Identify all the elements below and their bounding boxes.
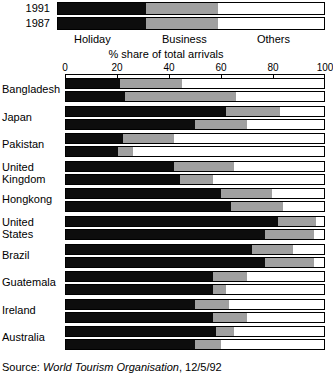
- legend-segment-holiday: [58, 18, 146, 29]
- legend-label-others: Others: [257, 32, 290, 46]
- bar-segment-others: [234, 327, 324, 336]
- axis-rule: [65, 74, 325, 75]
- legend-label-holiday: Holiday: [74, 32, 111, 46]
- bar-segment-others: [221, 340, 324, 349]
- bar-segment-holiday: [66, 285, 213, 294]
- country-group: Hongkong: [0, 188, 332, 212]
- country-group: Brazil: [0, 244, 332, 268]
- legend-sample-bar-1987: [57, 17, 325, 30]
- plot-area: BangladeshJapanPakistanUnitedKingdomHong…: [0, 78, 332, 356]
- bar-segment-holiday: [66, 340, 195, 349]
- bar-segment-business: [195, 340, 221, 349]
- bar-segment-others: [283, 202, 324, 211]
- axis-tick-label: 100: [317, 62, 333, 73]
- legend-sample-bar-1991: [57, 2, 325, 15]
- legend-segment-others: [218, 18, 324, 29]
- bar-segment-holiday: [66, 189, 221, 198]
- stacked-bar: [65, 339, 325, 350]
- bar-segment-holiday: [66, 230, 265, 239]
- bar-segment-business: [174, 162, 233, 171]
- axis-tick-label: 20: [111, 62, 122, 73]
- bar-segment-holiday: [66, 107, 226, 116]
- stacked-bar: [65, 106, 325, 117]
- bar-segment-holiday: [66, 327, 216, 336]
- country-group: Pakistan: [0, 133, 332, 157]
- bar-segment-business: [195, 300, 229, 309]
- bar-segment-business: [213, 272, 247, 281]
- bar-segment-holiday: [66, 92, 125, 101]
- category-label: Australia: [2, 331, 63, 343]
- bar-segment-holiday: [66, 120, 195, 129]
- country-group: Guatemala: [0, 271, 332, 295]
- bar-segment-holiday: [66, 79, 120, 88]
- bar-segment-business: [125, 92, 236, 101]
- bar-segment-holiday: [66, 147, 118, 156]
- stacked-bar: [65, 201, 325, 212]
- bar-segment-business: [213, 285, 226, 294]
- bar-segment-others: [182, 79, 324, 88]
- bar-segment-business: [221, 189, 273, 198]
- bar-segment-others: [247, 120, 324, 129]
- bar-segment-others: [174, 134, 324, 143]
- bar-segment-others: [247, 272, 324, 281]
- source-note: Source: World Tourism Organisation, 12/5…: [2, 360, 222, 374]
- category-label: Japan: [2, 111, 63, 123]
- bar-segment-holiday: [66, 162, 174, 171]
- stacked-bar: [65, 119, 325, 130]
- stacked-bar: [65, 91, 325, 102]
- category-label: Bangladesh: [2, 83, 63, 95]
- country-group: UnitedStates: [0, 216, 332, 240]
- bar-segment-others: [213, 175, 324, 184]
- bar-segment-business: [226, 107, 280, 116]
- bar-segment-business: [120, 79, 182, 88]
- axis-tick-label: 60: [215, 62, 226, 73]
- legend-year-1987: 1987: [0, 17, 50, 30]
- stacked-bar: [65, 326, 325, 337]
- source-organisation: World Tourism Organisation: [43, 361, 179, 373]
- bar-segment-holiday: [66, 217, 278, 226]
- bar-segment-business: [265, 258, 314, 267]
- legend-label-business: Business: [162, 32, 207, 46]
- bar-segment-others: [316, 217, 324, 226]
- stacked-bar: [65, 216, 325, 227]
- legend-segment-business: [146, 3, 218, 14]
- chart-legend: 1991 1987 Holiday Business Others: [0, 2, 332, 48]
- category-label: Pakistan: [2, 138, 63, 150]
- legend-segment-holiday: [58, 3, 146, 14]
- bar-segment-business: [213, 313, 247, 322]
- stacked-bar: [65, 244, 325, 255]
- category-label: UnitedStates: [2, 216, 63, 240]
- bar-segment-business: [216, 327, 234, 336]
- axis-tick-label: 80: [267, 62, 278, 73]
- category-label: Ireland: [2, 304, 63, 316]
- bar-segment-business: [195, 120, 247, 129]
- bar-segment-holiday: [66, 313, 213, 322]
- category-label: Hongkong: [2, 193, 63, 205]
- stacked-bar: [65, 271, 325, 282]
- bar-segment-business: [265, 230, 314, 239]
- stacked-bar: [65, 299, 325, 310]
- country-group: Japan: [0, 106, 332, 130]
- bar-segment-others: [280, 107, 324, 116]
- bar-segment-holiday: [66, 272, 213, 281]
- category-label: UnitedKingdom: [2, 161, 63, 185]
- stacked-bar: [65, 312, 325, 323]
- legend-segment-others: [218, 3, 324, 14]
- bar-segment-holiday: [66, 258, 265, 267]
- bar-segment-holiday: [66, 175, 180, 184]
- bar-segment-business: [252, 245, 293, 254]
- source-date: , 12/5/92: [179, 361, 222, 373]
- bar-segment-others: [314, 258, 324, 267]
- country-group: UnitedKingdom: [0, 161, 332, 185]
- bar-segment-business: [123, 134, 175, 143]
- stacked-bar: [65, 146, 325, 157]
- legend-label-row: Holiday Business Others: [57, 32, 325, 46]
- bar-segment-others: [247, 313, 324, 322]
- stacked-bar: [65, 229, 325, 240]
- bar-segment-others: [314, 230, 324, 239]
- legend-segment-business: [146, 18, 218, 29]
- legend-year-1991: 1991: [0, 2, 50, 15]
- bar-segment-business: [118, 147, 133, 156]
- bar-segment-business: [180, 175, 214, 184]
